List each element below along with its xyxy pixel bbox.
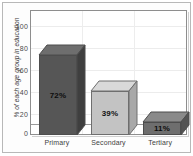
bar-secondary-face: 39% — [91, 91, 129, 135]
bar-tertiary-value-label: 11% — [154, 124, 170, 133]
bar-primary-face: 72% — [39, 55, 77, 135]
bar-secondary-value-label: 39% — [102, 109, 119, 118]
x-label-primary: Primary — [31, 137, 83, 151]
x-label-secondary: Secondary — [83, 137, 135, 151]
bar-primary[interactable]: 72% — [39, 45, 77, 125]
y-tick-label-80: 80 — [2, 45, 28, 52]
y-axis-ticks: 100 80 60 40 20 0 — [0, 11, 28, 134]
bar-secondary[interactable]: 39% — [91, 81, 129, 125]
x-label-tertiary: Tertiary — [134, 137, 186, 151]
x-axis-labels: Primary Secondary Tertiary — [31, 137, 186, 151]
y-tick-label-0: 0 — [2, 130, 28, 137]
y-tick-label-40: 40 — [2, 89, 28, 96]
y-tick-label-60: 60 — [2, 67, 28, 74]
y-tick-label-20: 20 — [2, 111, 28, 118]
bar-tertiary-face: 11% — [143, 122, 181, 135]
plot-area: 72% 39% 11% — [31, 11, 186, 134]
gridline-100 — [31, 26, 186, 27]
bar-tertiary[interactable]: 11% — [143, 112, 181, 125]
bar-primary-value-label: 72% — [50, 91, 67, 100]
y-tick-label-100: 100 — [2, 23, 28, 30]
bar-chart: % of each age group in education 100 80 … — [0, 0, 193, 156]
